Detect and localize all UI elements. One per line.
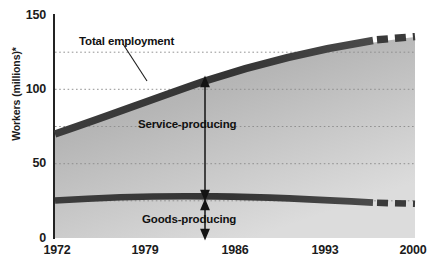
x-axis-tick-2000: 2000 (399, 243, 426, 257)
employment-chart: Workers (millions)* 150 100 50 0 (0, 0, 437, 270)
x-axis-tick-1972: 1972 (43, 243, 70, 257)
x-axis-tick-1993: 1993 (311, 243, 338, 257)
total-employment-leader-line (123, 44, 147, 81)
x-axis-tick-1979: 1979 (131, 243, 158, 257)
x-axis-tick-1986: 1986 (221, 243, 248, 257)
annotation-service-producing: Service-producing (138, 118, 236, 130)
annotation-goods-producing: Goods-producing (142, 213, 236, 225)
y-axis-tick-group: 150 100 50 0 (6, 0, 46, 270)
y-axis-tick-50: 50 (12, 156, 46, 170)
y-axis-tick-150: 150 (12, 8, 46, 22)
y-axis-tick-100: 100 (12, 82, 46, 96)
annotation-total-employment: Total employment (79, 35, 174, 47)
y-axis-tick-0: 0 (12, 231, 46, 245)
